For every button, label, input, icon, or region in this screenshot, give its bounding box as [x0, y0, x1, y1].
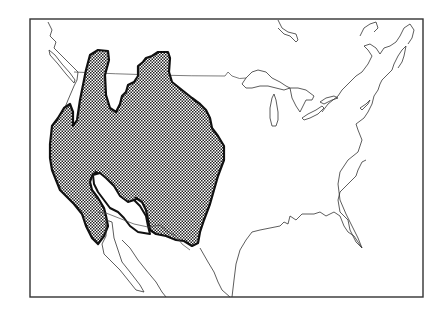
gulf-coast [200, 200, 362, 297]
vancouver-island [49, 50, 75, 83]
long-island [360, 100, 370, 110]
lake-michigan [270, 94, 278, 126]
atlantic-coast [338, 46, 406, 248]
james-bay [278, 20, 298, 42]
lake-huron [290, 88, 314, 112]
mexico-west-coast [122, 240, 166, 297]
lake-superior [242, 70, 290, 90]
lake-erie [302, 106, 324, 120]
florida [338, 160, 366, 200]
range-map [0, 0, 444, 314]
